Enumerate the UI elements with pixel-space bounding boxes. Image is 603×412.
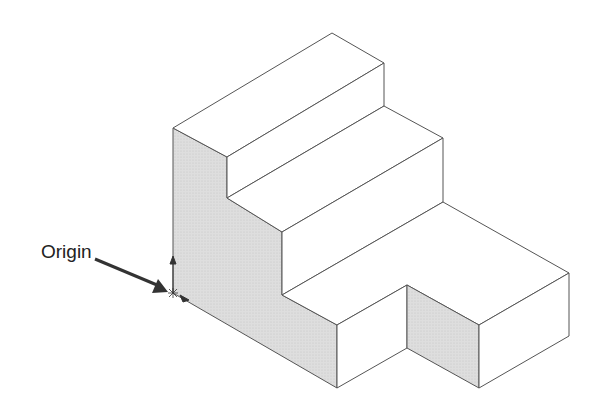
isometric-part-drawing <box>0 0 603 412</box>
origin-label: Origin <box>41 241 92 263</box>
origin-arrow-icon <box>95 259 168 293</box>
